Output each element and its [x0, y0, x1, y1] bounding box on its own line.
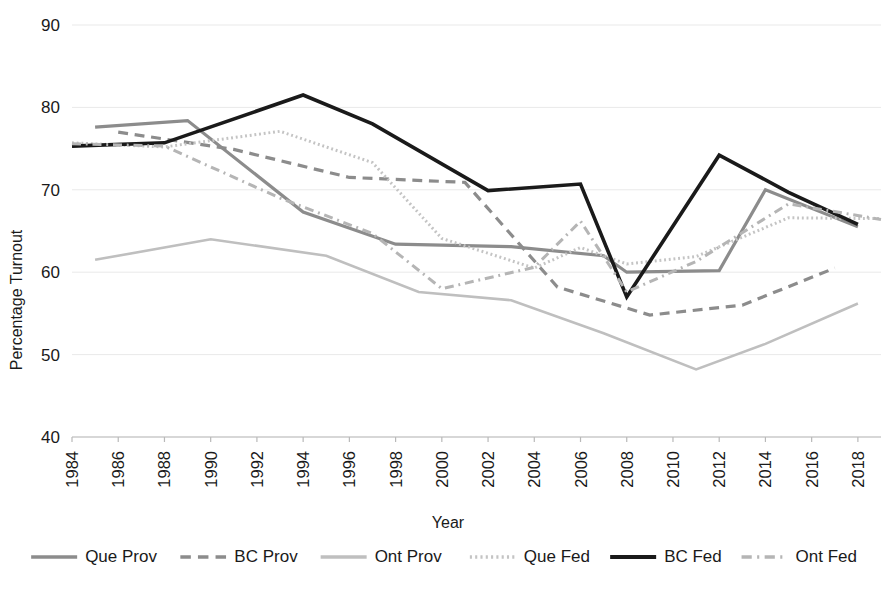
x-tick-label: 2006 [572, 451, 590, 488]
x-tick-label: 1996 [340, 451, 358, 488]
x-tick-label: 1994 [294, 451, 312, 488]
chart-background [0, 0, 889, 594]
y-axis-title: Percentage Turnout [8, 229, 25, 370]
y-tick-label: 70 [41, 181, 60, 200]
x-tick-label: 2018 [849, 451, 867, 488]
legend-label: Que Prov [85, 547, 157, 566]
legend-label: Que Fed [524, 547, 590, 566]
x-tick-label: 2010 [664, 451, 682, 488]
x-tick-label: 2002 [479, 451, 497, 488]
y-tick-label: 40 [41, 428, 60, 447]
x-tick-label: 2004 [525, 451, 543, 488]
legend-label: Ont Prov [375, 547, 443, 566]
y-tick-label: 60 [41, 263, 60, 282]
x-tick-label: 2012 [710, 451, 728, 488]
x-tick-label: 1992 [248, 451, 266, 488]
x-tick-label: 2000 [433, 451, 451, 488]
x-tick-label: 1998 [387, 451, 405, 488]
x-tick-label: 2016 [803, 451, 821, 488]
y-tick-label: 80 [41, 98, 60, 117]
x-tick-label: 2014 [756, 451, 774, 488]
legend-label: Ont Fed [796, 547, 857, 566]
x-tick-label: 1986 [109, 451, 127, 488]
x-tick-label: 2008 [618, 451, 636, 488]
legend-label: BC Prov [234, 547, 298, 566]
x-axis-title: Year [432, 514, 465, 531]
x-tick-label: 1990 [202, 451, 220, 488]
legend-label: BC Fed [664, 547, 722, 566]
x-tick-label: 1984 [63, 451, 81, 488]
x-tick-label: 1988 [155, 451, 173, 488]
y-tick-label: 50 [41, 346, 60, 365]
y-tick-label: 90 [41, 16, 60, 35]
chart-container: 405060708090 198419861988199019921994199… [0, 0, 889, 594]
turnout-line-chart: 405060708090 198419861988199019921994199… [0, 0, 889, 594]
